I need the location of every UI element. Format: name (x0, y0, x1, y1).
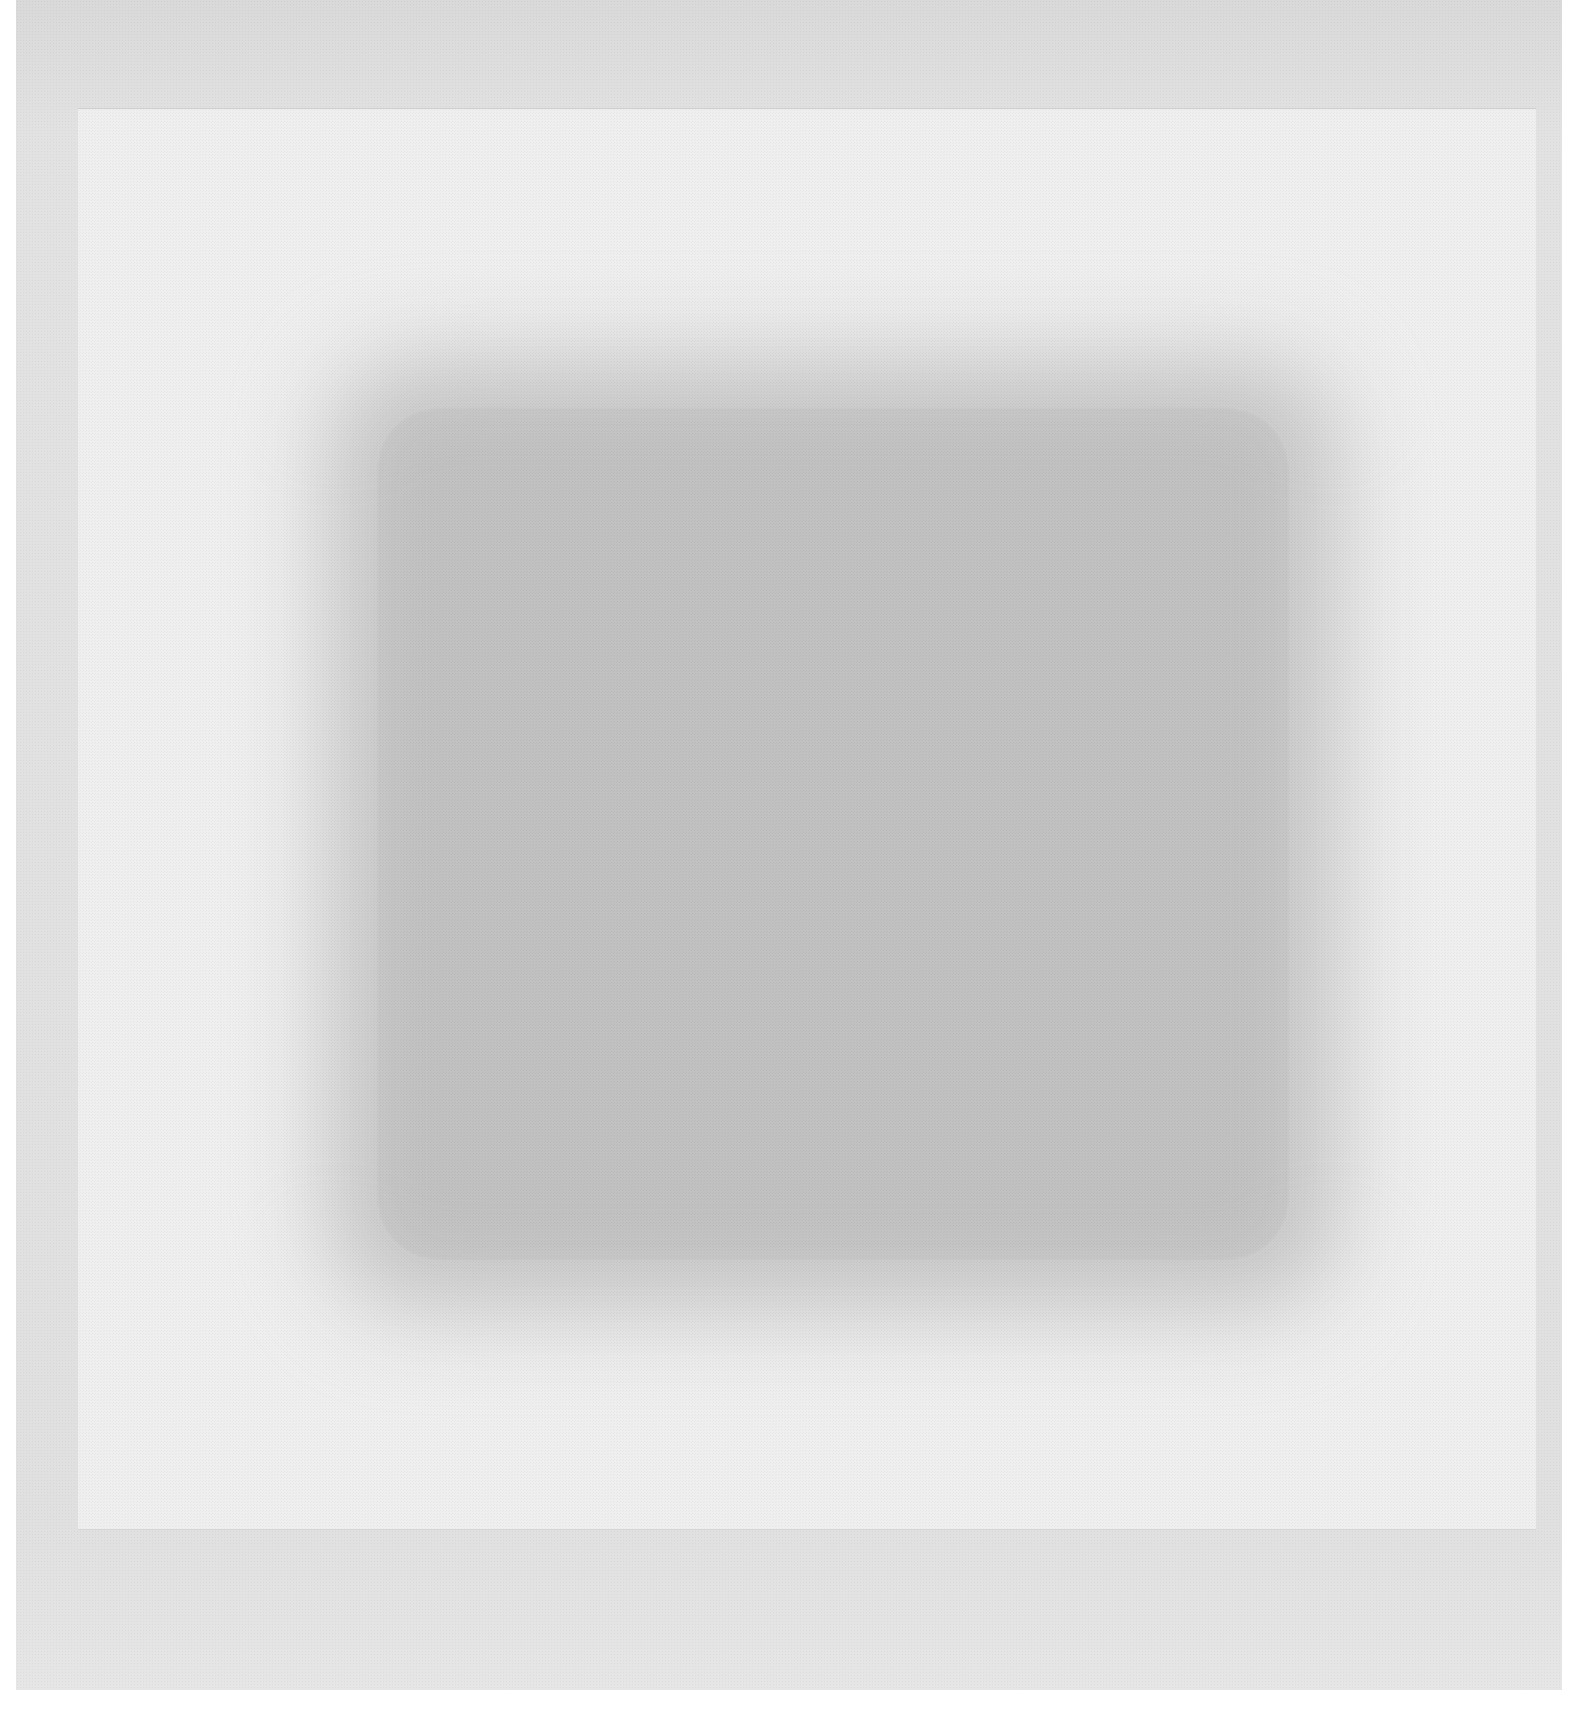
square-texture (378, 409, 1288, 1259)
outer-frame (16, 0, 1562, 1690)
center-gray-square (328, 359, 1338, 1309)
inner-panel (78, 108, 1536, 1529)
